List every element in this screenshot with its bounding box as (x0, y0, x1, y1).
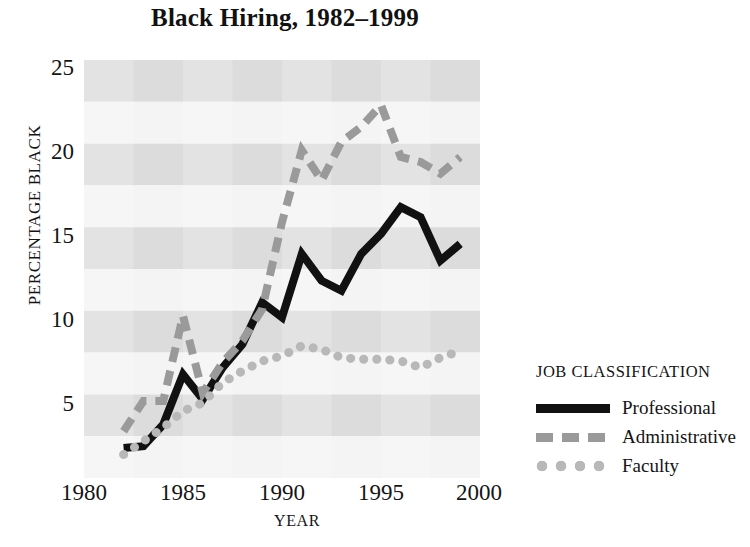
legend-item-administrative[interactable]: Administrative (536, 422, 750, 451)
y-tick-label-20: 20 (30, 140, 74, 163)
y-tick-label-25: 25 (30, 56, 74, 79)
x-tick-label-2000: 2000 (434, 481, 524, 504)
legend: JOB CLASSIFICATION Professional Administ… (536, 362, 750, 480)
legend-title: JOB CLASSIFICATION (536, 362, 750, 382)
x-axis-label: YEAR (237, 512, 357, 530)
legend-label-administrative: Administrative (622, 426, 736, 448)
dashed-line-swatch (536, 429, 610, 445)
y-tick-label-15: 15 (30, 224, 74, 247)
x-tick-label-1985: 1985 (138, 481, 228, 504)
y-tick-label-10: 10 (30, 308, 74, 331)
plot-area (84, 60, 480, 478)
legend-item-professional[interactable]: Professional (536, 393, 750, 422)
legend-label-professional: Professional (622, 397, 716, 419)
chart-title: Black Hiring, 1982–1999 (80, 4, 490, 32)
legend-label-faculty: Faculty (622, 455, 679, 477)
y-axis-label: PERCENTAGE BLACK (25, 100, 45, 330)
x-tick-label-1990: 1990 (237, 481, 327, 504)
plot-svg (84, 60, 480, 478)
solid-line-swatch (536, 400, 610, 416)
legend-item-faculty[interactable]: Faculty (536, 451, 750, 480)
x-tick-label-1980: 1980 (39, 481, 129, 504)
background-bands (84, 60, 480, 478)
y-tick-label-5: 5 (30, 392, 74, 415)
dotted-line-swatch (536, 458, 610, 474)
chart-figure: Black Hiring, 1982–1999 PERCENTAGE BLACK… (0, 0, 750, 547)
x-tick-label-1995: 1995 (336, 481, 426, 504)
